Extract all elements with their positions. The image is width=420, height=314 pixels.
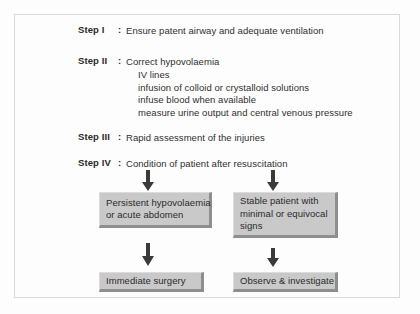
flow-line: Persistent hypovolaemia — [106, 197, 203, 210]
condition-box-left: Persistent hypovolaemia or acute abdomen — [99, 192, 212, 228]
step-text: Rapid assessment of the injuries — [126, 131, 265, 144]
sub-item: infuse blood when available — [138, 94, 353, 107]
flow-line: Stable patient with — [240, 195, 329, 208]
step-body: Correct hypovolaemia IV lines infusion o… — [126, 55, 353, 119]
step-row-4: Step IV : Condition of patient after res… — [78, 157, 287, 170]
arrow-down-icon — [266, 170, 280, 192]
outcome-box-right: Observe & investigate — [233, 272, 338, 292]
step-body: Condition of patient after resuscitation — [126, 157, 287, 170]
step-label: Step I — [78, 24, 118, 35]
condition-box-right: Stable patient with minimal or equivocal… — [233, 192, 338, 238]
step-colon: : — [118, 131, 126, 142]
step-row-1: Step I : Ensure patent airway and adequa… — [78, 24, 324, 37]
step-colon: : — [118, 24, 126, 35]
step-sub-list: IV lines infusion of colloid or crystall… — [126, 69, 353, 119]
step-label: Step III — [78, 131, 118, 142]
step-body: Rapid assessment of the injuries — [126, 131, 265, 144]
step-colon: : — [118, 55, 126, 66]
step-body: Ensure patent airway and adequate ventil… — [126, 24, 324, 37]
step-row-3: Step III : Rapid assessment of the injur… — [78, 131, 265, 144]
outcome-box-left: Immediate surgery — [99, 272, 204, 292]
step-text: Correct hypovolaemia — [126, 55, 353, 68]
sub-item: measure urine output and central venous … — [138, 107, 353, 120]
sub-item: infusion of colloid or crystalloid solut… — [138, 82, 353, 95]
step-colon: : — [118, 157, 126, 168]
step-text: Condition of patient after resuscitation — [126, 157, 287, 170]
flow-line: minimal or equivocal — [240, 208, 329, 221]
step-row-2: Step II : Correct hypovolaemia IV lines … — [78, 55, 353, 119]
arrow-down-icon — [141, 170, 155, 192]
arrow-down-icon — [141, 243, 155, 267]
step-text: Ensure patent airway and adequate ventil… — [126, 24, 324, 37]
step-label: Step II — [78, 55, 118, 66]
step-label: Step IV — [78, 157, 118, 168]
flow-line: Immediate surgery — [106, 275, 195, 288]
flow-line: signs — [240, 220, 329, 233]
flow-line: Observe & investigate — [240, 275, 329, 288]
sub-item: IV lines — [138, 69, 353, 82]
arrow-down-icon — [266, 248, 280, 268]
flow-line: or acute abdomen — [106, 209, 203, 222]
figure-root: Step I : Ensure patent airway and adequa… — [0, 0, 420, 314]
